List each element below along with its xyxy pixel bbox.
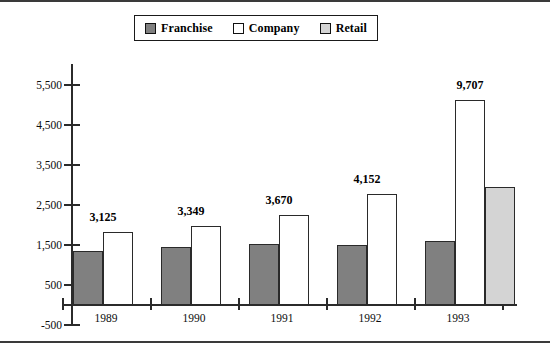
bar-total-label-1989: 3,125: [90, 210, 117, 225]
x-axis-tick: [62, 298, 64, 310]
bar-franchise-1990: [161, 247, 191, 305]
y-axis-tick: [64, 84, 80, 86]
chart-figure: Franchise Company Retail -5005001,5002,5…: [0, 0, 550, 343]
y-axis-tick-label: -500: [10, 319, 62, 331]
bar-total-label-1993: 9,707: [457, 78, 484, 93]
bar-company-1993: [455, 100, 485, 305]
y-axis-tick-label: 2,500: [10, 199, 62, 211]
bar-company-1989: [103, 232, 133, 305]
y-axis-tick: [64, 244, 80, 246]
bar-total-label-1992: 4,152: [354, 172, 381, 187]
x-axis-category-label: 1990: [183, 312, 206, 324]
y-axis-tick: [64, 324, 80, 326]
bar-total-label-1990: 3,349: [178, 204, 205, 219]
bar-franchise-1993: [425, 241, 455, 305]
bar-total-label-1991: 3,670: [266, 193, 293, 208]
x-axis-tick: [414, 298, 416, 310]
bar-company-1992: [367, 194, 397, 305]
bar-franchise-1989: [73, 251, 103, 305]
plot-area: -5005001,5002,5003,5004,5005,500 1989199…: [0, 2, 550, 343]
y-axis-tick: [64, 164, 80, 166]
y-axis-tick-label: 4,500: [10, 119, 62, 131]
bar-company-1990: [191, 226, 221, 305]
x-axis-category-label: 1992: [359, 312, 382, 324]
x-axis-category-label: 1989: [95, 312, 118, 324]
bar-franchise-1991: [249, 244, 279, 305]
bar-retail-1993: [485, 187, 515, 305]
x-axis-category-label: 1993: [447, 312, 470, 324]
y-axis-tick-label: 500: [10, 279, 62, 291]
x-axis-tick: [150, 298, 152, 310]
x-axis-tick: [326, 298, 328, 310]
y-axis-tick: [64, 124, 80, 126]
y-axis-tick-label: 5,500: [10, 79, 62, 91]
bar-company-1991: [279, 215, 309, 305]
bar-franchise-1992: [337, 245, 367, 305]
y-axis-tick-label: 1,500: [10, 239, 62, 251]
x-axis-category-label: 1991: [271, 312, 294, 324]
y-axis-tick: [64, 204, 80, 206]
y-axis-tick-label: 3,500: [10, 159, 62, 171]
x-axis-tick: [238, 298, 240, 310]
